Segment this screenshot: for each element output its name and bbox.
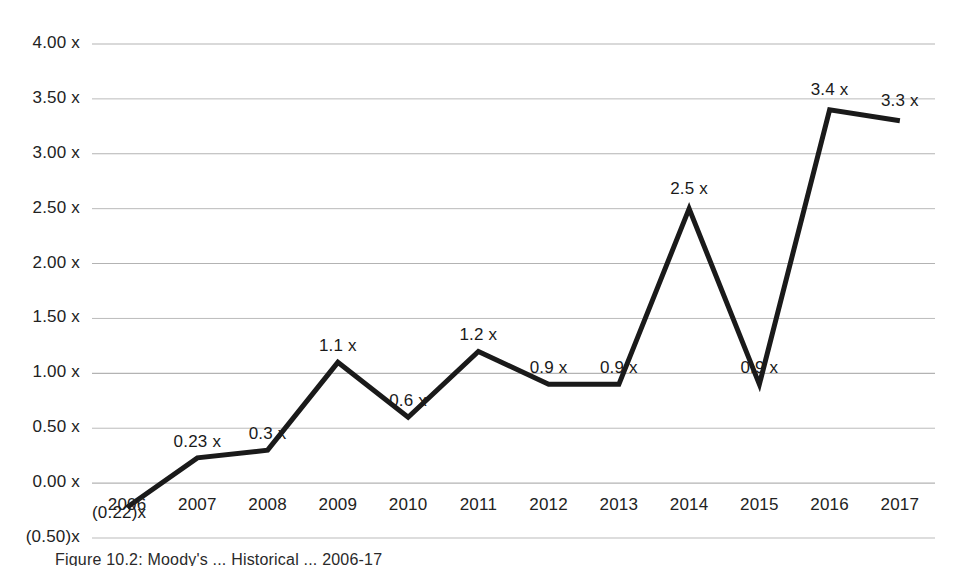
x-axis-tick-label: 2013 [585, 495, 653, 515]
x-axis-tick-label: 2017 [866, 495, 934, 515]
figure-caption: Figure 10.2: Moody's ... Historical ... … [55, 551, 382, 566]
data-point-label: 2.5 x [649, 179, 729, 199]
figure-container: 4.00 x3.50 x3.00 x2.50 x2.00 x1.50 x1.00… [0, 0, 966, 566]
x-axis-tick-label: 2011 [444, 495, 512, 515]
data-point-label: 0.9 x [579, 358, 659, 378]
y-axis-tick-label: 0.50 x [0, 417, 80, 437]
x-axis-tick-label: 2009 [304, 495, 372, 515]
y-axis-tick-label: 3.50 x [0, 88, 80, 108]
data-point-label: 1.2 x [438, 325, 518, 345]
data-point-label: 0.6 x [368, 391, 448, 411]
x-axis-tick-label: 2008 [234, 495, 302, 515]
x-axis-tick-label: 2015 [725, 495, 793, 515]
data-point-label: 1.1 x [298, 336, 378, 356]
y-axis-tick-label: 2.50 x [0, 198, 80, 218]
y-axis-tick-label: (0.50)x [0, 527, 80, 547]
data-point-label: 0.9 x [719, 358, 799, 378]
data-series-line [127, 110, 900, 507]
x-axis-tick-label: 2016 [796, 495, 864, 515]
data-point-label: 3.3 x [860, 91, 940, 111]
y-axis-tick-label: 4.00 x [0, 33, 80, 53]
x-axis-tick-label: 2014 [655, 495, 723, 515]
data-point-label: (0.22)x [79, 503, 159, 523]
y-axis-tick-label: 3.00 x [0, 143, 80, 163]
x-axis-tick-label: 2012 [515, 495, 583, 515]
data-point-label: 0.3 x [228, 424, 308, 444]
x-axis-tick-label: 2007 [163, 495, 231, 515]
x-axis-tick-label: 2010 [374, 495, 442, 515]
y-axis-tick-label: 1.50 x [0, 307, 80, 327]
data-point-label: 0.9 x [509, 358, 589, 378]
data-point-label: 3.4 x [790, 80, 870, 100]
data-point-label: 0.23 x [157, 432, 237, 452]
y-axis-tick-label: 1.00 x [0, 362, 80, 382]
y-axis-tick-label: 2.00 x [0, 253, 80, 273]
y-axis-tick-label: 0.00 x [0, 472, 80, 492]
